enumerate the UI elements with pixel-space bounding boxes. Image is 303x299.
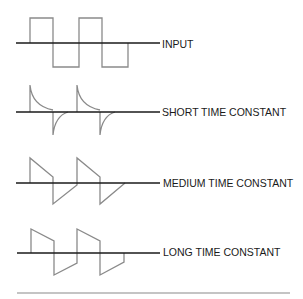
input-label: INPUT xyxy=(162,38,194,50)
short-time-constant-waveform xyxy=(16,85,160,135)
short-time-constant-label: SHORT TIME CONSTANT xyxy=(162,106,286,118)
long-time-constant-label: LONG TIME CONSTANT xyxy=(163,246,280,258)
input-waveform xyxy=(16,18,160,67)
medium-time-constant-waveform xyxy=(16,158,160,204)
long-time-constant-waveform xyxy=(17,229,160,275)
medium-time-constant-label: MEDIUM TIME CONSTANT xyxy=(163,177,293,189)
